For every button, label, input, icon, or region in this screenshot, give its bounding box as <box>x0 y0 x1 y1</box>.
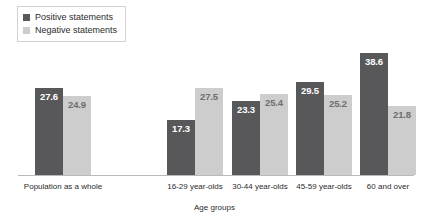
plot-area: 27.624.917.327.523.325.429.525.238.621.8 <box>0 0 429 176</box>
bar-value-label: 27.6 <box>35 91 63 102</box>
bar-negative: 25.4 <box>260 94 288 175</box>
x-axis-line <box>18 175 414 176</box>
bar-negative: 24.9 <box>63 96 91 175</box>
bar-value-label: 38.6 <box>360 56 388 67</box>
bar-value-label: 25.2 <box>324 98 352 109</box>
bar-positive: 38.6 <box>360 53 388 175</box>
bar-value-label: 29.5 <box>296 85 324 96</box>
bar-value-label: 25.4 <box>260 97 288 108</box>
bar-positive: 27.6 <box>35 88 63 175</box>
x-axis-title: Age groups <box>0 203 429 212</box>
bar-value-label: 24.9 <box>63 99 91 110</box>
bar-value-label: 27.5 <box>195 91 223 102</box>
category-label: Population as a whole <box>0 182 133 191</box>
bar-value-label: 21.8 <box>388 109 416 120</box>
bar-negative: 25.2 <box>324 95 352 175</box>
bar-negative: 21.8 <box>388 106 416 175</box>
bar-chart: Positive statements Negative statements … <box>0 0 429 222</box>
bar-positive: 29.5 <box>296 82 324 176</box>
bar-value-label: 17.3 <box>167 123 195 134</box>
bar-positive: 23.3 <box>232 101 260 175</box>
bar-value-label: 23.3 <box>232 104 260 115</box>
category-label: 60 and over <box>318 182 429 191</box>
bar-positive: 17.3 <box>167 120 195 175</box>
bar-negative: 27.5 <box>195 88 223 175</box>
